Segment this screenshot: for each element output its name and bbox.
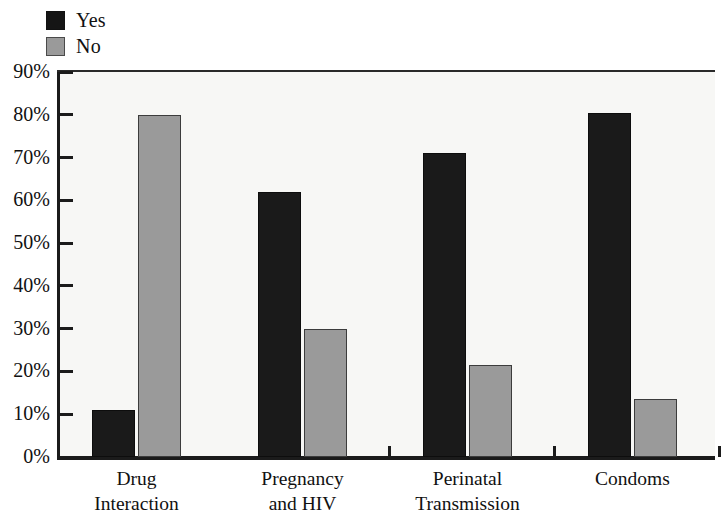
y-axis-tick-label: 0%: [0, 446, 50, 466]
y-axis-tick-label: 60%: [0, 189, 50, 209]
y-axis-tick-label: 30%: [0, 318, 50, 338]
y-axis-tick: [60, 71, 73, 74]
x-axis-tick: [553, 446, 556, 457]
bar-yes: [258, 192, 301, 457]
bar-yes: [92, 410, 135, 457]
x-axis-tick: [388, 446, 391, 457]
y-axis-line: [57, 72, 60, 457]
y-axis-tick: [60, 284, 73, 287]
y-axis-tick-label: 80%: [0, 104, 50, 124]
x-axis-tick: [718, 446, 721, 457]
x-axis-category-label: Condoms: [543, 466, 723, 491]
x-axis-category-label-line: Pregnancy: [213, 466, 393, 491]
bar-yes: [588, 113, 631, 457]
legend-label-no: No: [76, 36, 101, 56]
y-axis-tick-label: 20%: [0, 360, 50, 380]
x-axis-category-label-line: Condoms: [543, 466, 723, 491]
legend-label-yes: Yes: [76, 10, 106, 30]
bar-no: [138, 115, 181, 457]
y-axis-tick: [60, 113, 73, 116]
legend-item-no: No: [46, 34, 206, 58]
bar-no: [634, 399, 677, 457]
y-axis-tick: [60, 156, 73, 159]
y-axis-tick-label: 50%: [0, 232, 50, 252]
x-axis-category-label-line: Interaction: [47, 491, 227, 516]
x-axis-category-label-line: Perinatal: [378, 466, 558, 491]
y-axis-tick: [60, 456, 73, 459]
y-axis-tick-label: 40%: [0, 275, 50, 295]
chart-legend: Yes No: [46, 8, 206, 60]
legend-swatch-yes-icon: [46, 11, 65, 30]
y-axis-tick: [60, 327, 73, 330]
bar-yes: [423, 153, 466, 457]
x-axis-category-label: DrugInteraction: [47, 466, 227, 516]
y-axis-tick: [60, 413, 73, 416]
plot-area: 90%80%70%60%50%40%30%20%10%0%: [57, 70, 715, 460]
y-axis-tick-label: 70%: [0, 147, 50, 167]
legend-item-yes: Yes: [46, 8, 206, 32]
x-axis-category-label-line: and HIV: [213, 491, 393, 516]
bar-no: [469, 365, 512, 457]
bar-no: [304, 329, 347, 457]
y-axis-tick-label: 90%: [0, 61, 50, 81]
axis-top-line: [57, 70, 715, 72]
legend-swatch-no-icon: [46, 37, 65, 56]
y-axis-tick: [60, 242, 73, 245]
x-axis-category-label: PerinatalTransmission: [378, 466, 558, 516]
x-axis-category-label: Pregnancyand HIV: [213, 466, 393, 516]
y-axis-tick: [60, 370, 73, 373]
y-axis-tick: [60, 199, 73, 202]
x-axis-category-label-line: Drug: [47, 466, 227, 491]
y-axis-tick-label: 10%: [0, 403, 50, 423]
x-axis-category-label-line: Transmission: [378, 491, 558, 516]
